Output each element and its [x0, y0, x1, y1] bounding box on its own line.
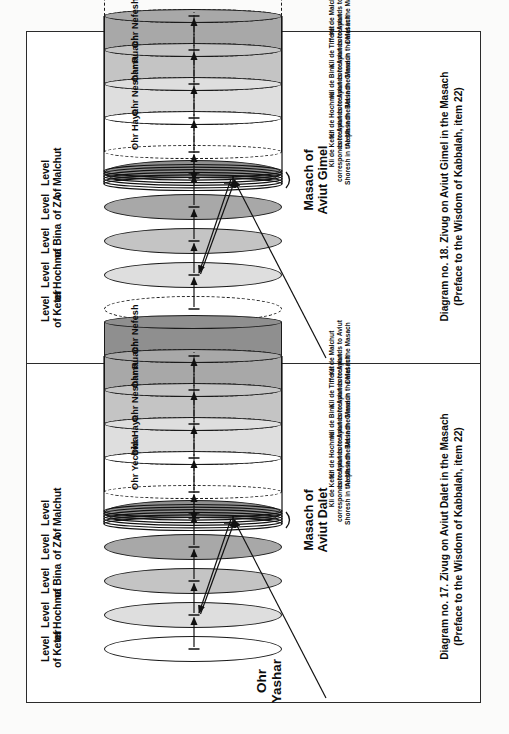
- diagram-panel-17: Levelof KeterLevelof HochmaLevelof BinaL…: [26, 371, 481, 702]
- diagram-panel-18: Levelof KeterLevelof HochmaLevelof BinaL…: [26, 31, 481, 362]
- diagram-18-inner: Levelof KeterLevelof HochmaLevelof BinaL…: [26, 31, 481, 362]
- ohr-segment-label: Ohr Nefesh: [130, 320, 140, 354]
- diagram-line-overlay: [26, 371, 481, 702]
- diagram-17-inner: Levelof KeterLevelof HochmaLevelof BinaL…: [26, 371, 481, 702]
- diagram-line-overlay: [26, 31, 481, 362]
